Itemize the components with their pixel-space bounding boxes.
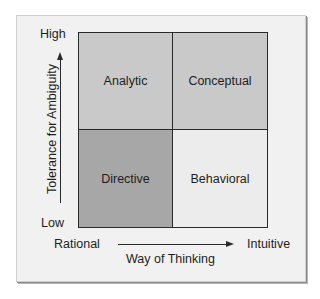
y-axis-line [60, 58, 61, 203]
y-axis-high-label: High [40, 27, 66, 41]
quadrant-label: Directive [101, 172, 150, 186]
x-axis-left-label: Rational [54, 237, 100, 251]
quadrant-behavioral: Behavioral [173, 130, 267, 227]
x-axis-title: Way of Thinking [126, 252, 215, 266]
x-axis-line [118, 244, 230, 245]
quadrant-directive: Directive [79, 130, 173, 227]
quadrant-label: Conceptual [188, 74, 251, 88]
y-axis-low-label: Low [41, 216, 64, 230]
quadrant-label: Behavioral [190, 172, 249, 186]
x-axis-arrow-icon [226, 241, 234, 247]
quadrant-grid: Analytic Conceptual Directive Behavioral [78, 32, 268, 228]
quadrant-analytic: Analytic [79, 33, 173, 130]
x-axis-right-label: Intuitive [247, 237, 290, 251]
quadrant-label: Analytic [104, 74, 148, 88]
quadrant-conceptual: Conceptual [173, 33, 267, 130]
y-axis-title: Tolerance for Ambiguity [45, 64, 59, 194]
